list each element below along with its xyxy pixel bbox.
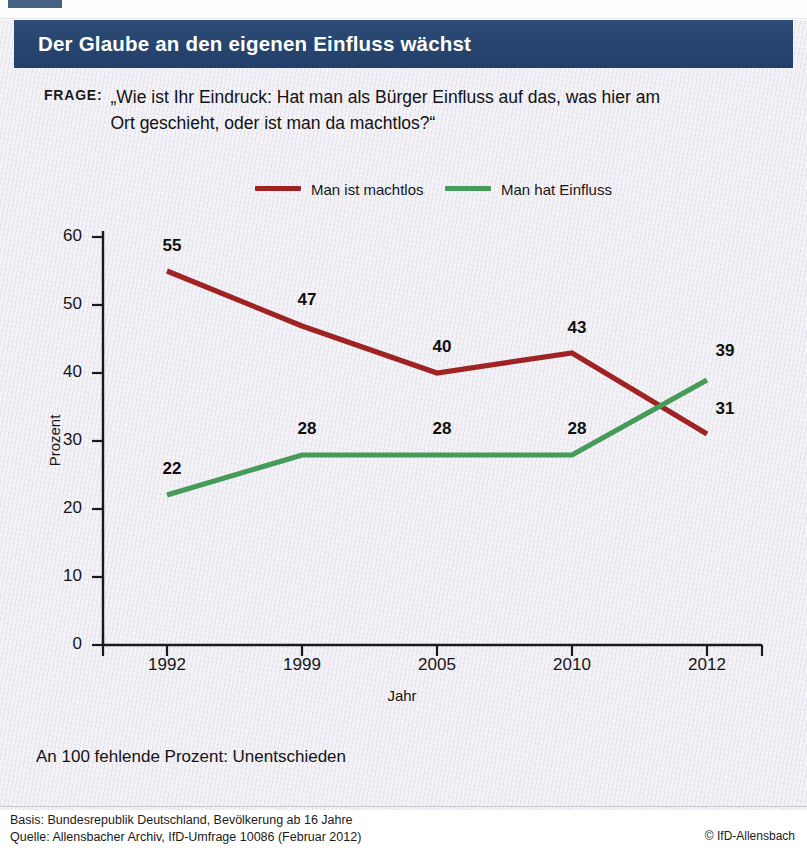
- source-block: Basis: Bundesrepublik Deutschland, Bevöl…: [10, 812, 361, 846]
- data-label-einfluss-2012: 39: [703, 341, 747, 361]
- y-tick-label-50: 50: [36, 294, 82, 314]
- y-tick-label-60: 60: [36, 226, 82, 246]
- question-block: FRAGE:„Wie ist Ihr Eindruck: Hat man als…: [44, 84, 774, 136]
- top-strip: [0, 0, 807, 19]
- data-label-einfluss-2005: 28: [420, 419, 464, 439]
- y-tick-label-30: 30: [36, 430, 82, 450]
- series-line-machtlos: [167, 271, 707, 434]
- legend-swatch-einfluss: [445, 186, 491, 191]
- question-line-1: „Wie ist Ihr Eindruck: Hat man als Bürge…: [110, 87, 660, 107]
- x-tick-label-1999: 1999: [257, 655, 347, 675]
- data-label-einfluss-2010: 28: [555, 419, 599, 439]
- legend-label-einfluss: Man hat Einfluss: [501, 181, 612, 198]
- data-label-machtlos-2012: 31: [703, 399, 747, 419]
- data-label-machtlos-2010: 43: [555, 318, 599, 338]
- top-strip-mark: [8, 0, 62, 8]
- x-tick-label-2012: 2012: [662, 655, 752, 675]
- question-line-2: Ort geschieht, oder ist man da machtlos?…: [110, 110, 760, 136]
- source-basis: Basis: Bundesrepublik Deutschland, Bevöl…: [10, 812, 361, 829]
- y-axis-title: Prozent: [46, 381, 63, 501]
- y-tick-label-10: 10: [36, 566, 82, 586]
- legend-label-machtlos: Man ist machtlos: [311, 181, 424, 198]
- question-label: FRAGE:: [44, 84, 102, 103]
- paper-texture: [0, 20, 807, 810]
- footnote-text: An 100 fehlende Prozent: Unentschieden: [36, 747, 346, 767]
- legend-item-machtlos: Man ist machtlos: [255, 180, 424, 202]
- infographic-page: Der Glaube an den eigenen Einfluss wächs…: [0, 0, 807, 855]
- x-tick-label-1992: 1992: [122, 655, 212, 675]
- x-axis-title: Jahr: [337, 687, 467, 704]
- footer-divider: [0, 806, 807, 807]
- y-tick-label-20: 20: [36, 498, 82, 518]
- data-label-machtlos-1999: 47: [285, 290, 329, 310]
- chart-axes: [92, 231, 762, 656]
- x-tick-label-2005: 2005: [392, 655, 482, 675]
- series-line-einfluss: [167, 380, 707, 495]
- source-quelle: Quelle: Allensbacher Archiv, IfD-Umfrage…: [10, 829, 361, 846]
- y-tick-label-40: 40: [36, 362, 82, 382]
- copyright-text: © IfD-Allensbach: [705, 829, 795, 843]
- data-label-machtlos-1992: 55: [150, 236, 194, 256]
- legend-item-einfluss: Man hat Einfluss: [445, 180, 612, 202]
- x-tick-label-2010: 2010: [527, 655, 617, 675]
- question-text: „Wie ist Ihr Eindruck: Hat man als Bürge…: [110, 84, 760, 136]
- y-tick-label-0: 0: [36, 634, 82, 654]
- data-label-einfluss-1999: 28: [285, 419, 329, 439]
- data-label-machtlos-2005: 40: [420, 337, 464, 357]
- data-label-einfluss-1992: 22: [150, 459, 194, 479]
- legend-swatch-machtlos: [255, 186, 301, 191]
- chart-legend: Man ist machtlos Man hat Einfluss: [255, 180, 655, 202]
- header-bar: Der Glaube an den eigenen Einfluss wächs…: [14, 20, 793, 68]
- page-title: Der Glaube an den eigenen Einfluss wächs…: [38, 32, 471, 56]
